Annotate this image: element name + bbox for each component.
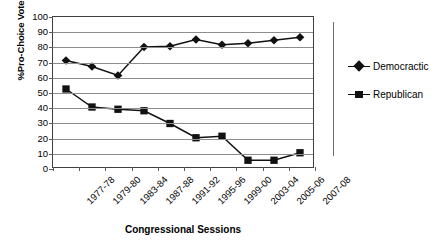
- legend-label: Republican: [373, 89, 423, 100]
- x-tick-label: 1983-84: [137, 174, 169, 206]
- legend-marker: [355, 91, 363, 99]
- x-tick-label: 2005-06: [294, 174, 326, 206]
- chart-legend: DemocracticRepublican: [333, 22, 441, 156]
- diamond-marker-icon: [348, 61, 370, 72]
- x-tick-label: 1977-78: [84, 174, 116, 206]
- square-marker-icon: [348, 89, 370, 100]
- legend-entry-republican[interactable]: Republican: [348, 88, 423, 100]
- x-tick-label: 1991-92: [189, 174, 221, 206]
- x-tick-label: 1999-00: [242, 174, 274, 206]
- x-tick-label: 1979-80: [111, 174, 143, 206]
- x-axis-title: Congressional Sessions: [52, 224, 314, 235]
- legend-entry-democractic[interactable]: Democractic: [348, 60, 429, 72]
- legend-marker: [353, 60, 364, 71]
- x-tick-label: 2007-08: [320, 174, 352, 206]
- x-tick-label: 2003-04: [268, 174, 300, 206]
- x-tick-label: 1987-88: [163, 174, 195, 206]
- x-tick-label: 1995-96: [215, 174, 247, 206]
- legend-label: Democractic: [373, 61, 429, 72]
- pro-choice-vote-line-chart: %Pro-Choice Vote 0102030405060708090100 …: [0, 0, 441, 245]
